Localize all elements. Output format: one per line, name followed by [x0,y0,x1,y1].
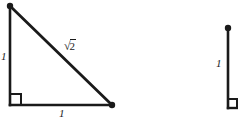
partial-figure-right-angle-marker [228,99,237,108]
radicand-value: 2 [70,39,77,52]
geometry-figure-canvas: 1 1 √2 1 [0,0,238,124]
right-angle-marker [10,94,21,105]
label-hypotenuse: √2 [64,40,76,52]
partial-figure-vertex-dot-top [225,25,231,31]
figure-vector-layer [0,0,238,124]
vertex-dot-bottom-right [109,102,115,108]
label-vertical-leg: 1 [1,51,7,62]
label-partial-figure-vertical-leg: 1 [216,58,222,69]
radical-expression: √2 [64,40,76,52]
triangle-hypotenuse [10,6,112,105]
vertex-dot-top [7,3,13,9]
label-horizontal-leg: 1 [59,108,65,119]
